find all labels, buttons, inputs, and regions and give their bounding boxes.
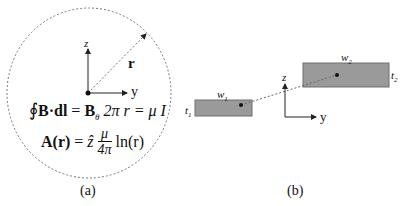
fraction: μ4π — [98, 126, 112, 158]
radius-label: r — [128, 56, 135, 71]
contour-integral-symbol: ∮ — [29, 100, 38, 120]
vector-potential-equation: A(r) = ẑμ4πln(r) — [41, 126, 144, 158]
caption-a: (a) — [80, 184, 96, 198]
y-axis-label-b: y — [320, 110, 327, 123]
y-axis-label-a: y — [131, 85, 138, 99]
wire-1-thickness-label: t1 — [185, 105, 192, 119]
figure: z y r ∮B·dl = Bθ 2π r = μ I A(r) = ẑμ4πl… — [0, 0, 404, 206]
wire-2 — [303, 63, 389, 87]
separation-vector — [241, 75, 337, 105]
wire-1-width-label: w1 — [217, 89, 228, 103]
z-axis-label-a: z — [84, 38, 88, 49]
ampere-law-equation: ∮B·dl = Bθ 2π r = μ I — [29, 101, 166, 122]
z-axis-label-b: z — [282, 72, 286, 83]
caption-b: (b) — [287, 184, 303, 198]
wire-2-center — [335, 73, 339, 77]
wire-2-width-label: w2 — [341, 52, 352, 66]
wire-1-center — [239, 103, 243, 107]
wire-2-thickness-label: t2 — [391, 70, 398, 84]
origin-dot-a — [86, 91, 91, 96]
